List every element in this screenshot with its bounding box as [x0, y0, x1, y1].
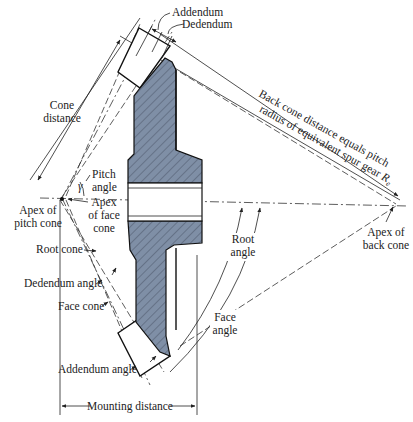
- label-root-angle-1: Root: [232, 233, 255, 245]
- label-back-cone-line1: Back cone distance equals pitch: [257, 87, 392, 170]
- label-addendum: Addendum: [172, 6, 223, 18]
- label-cone-distance-2: distance: [43, 112, 81, 124]
- label-pitch-angle-2: angle: [92, 181, 117, 194]
- label-cone-distance-1: Cone: [50, 99, 74, 111]
- pitch-angle-leader: [86, 175, 90, 181]
- label-root-angle-2: angle: [231, 246, 256, 259]
- label-dedendum: Dedendum: [182, 18, 233, 30]
- label-apex-back-2: back cone: [363, 239, 409, 251]
- bore: [128, 183, 202, 221]
- apex-face-leader: [68, 199, 88, 202]
- label-apex-face-1: Apex: [92, 196, 117, 209]
- root-cone-leader: [84, 250, 96, 251]
- back-cone-line-upper: [180, 72, 396, 204]
- bevel-gear-diagram: Mounting distance Addendum Dedendum Back…: [0, 0, 413, 422]
- apex-pitch-cone-point: [60, 197, 64, 201]
- label-back-cone-line2: radius of equivalent spur gear Re: [256, 103, 395, 189]
- label-pitch-angle-1: Pitch: [92, 168, 116, 180]
- label-apex-face-3: cone: [93, 222, 115, 234]
- addendum-leader: [158, 13, 170, 30]
- label-gamma: γ: [78, 180, 83, 193]
- label-apex-face-2: of face: [88, 209, 120, 221]
- label-face-cone: Face cone: [58, 300, 104, 312]
- label-mounting-distance: Mounting distance: [87, 400, 173, 413]
- label-apex-back-1: Apex of: [367, 226, 405, 239]
- dedendum-angle-ext: [112, 268, 116, 275]
- label-addendum-angle: Addendum angle: [58, 363, 137, 376]
- label-face-angle-1: Face: [214, 311, 236, 323]
- label-apex-pitch-2: pitch cone: [14, 217, 62, 230]
- label-face-angle-2: angle: [213, 324, 238, 337]
- label-dedendum-angle: Dedendum angle: [24, 277, 102, 290]
- label-root-cone: Root cone: [36, 243, 83, 255]
- apex-back-leader: [386, 207, 393, 222]
- label-apex-pitch-1: Apex of: [19, 204, 57, 217]
